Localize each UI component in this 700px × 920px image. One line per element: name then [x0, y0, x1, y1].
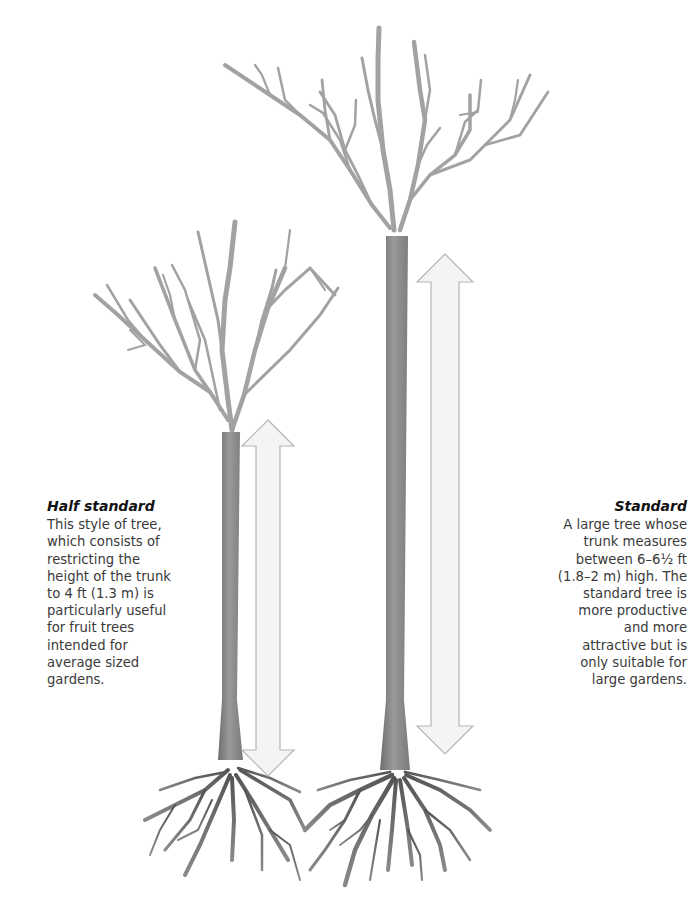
standard-description: A large tree whose trunk measures betwee…	[505, 516, 687, 688]
standard-caption: Standard A large tree whose trunk measur…	[505, 498, 687, 688]
standard-height-arrow	[417, 254, 473, 754]
standard-trunk	[380, 236, 410, 770]
tree-drawings	[0, 0, 700, 920]
standard-roots	[305, 772, 490, 885]
half-standard-title: Half standard	[47, 498, 217, 515]
half-standard-trunk	[218, 432, 243, 760]
half-standard-height-arrow	[242, 420, 294, 776]
tree-comparison-illustration: Half standard This style of tree, which …	[0, 0, 700, 920]
standard-crown	[225, 28, 548, 230]
half-standard-roots	[145, 768, 305, 880]
half-standard-crown	[95, 222, 338, 430]
half-standard-caption: Half standard This style of tree, which …	[47, 498, 217, 688]
half-standard-description: This style of tree, which consists of re…	[47, 516, 217, 688]
standard-title: Standard	[505, 498, 687, 515]
